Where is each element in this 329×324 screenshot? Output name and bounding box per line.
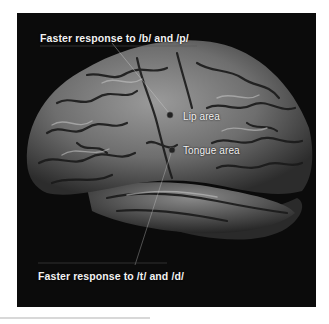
caption-fragment [0, 317, 150, 319]
brain-figure-panel: Faster response to /b/ and /p/ Lip area … [17, 13, 316, 307]
cropped-caption [0, 313, 160, 324]
label-tongue-area: Tongue area [183, 145, 240, 156]
brain-illustration [17, 13, 316, 307]
label-faster-t-d: Faster response to /t/ and /d/ [38, 270, 184, 282]
tongue-marker [169, 147, 175, 153]
label-faster-b-p: Faster response to /b/ and /p/ [40, 32, 189, 44]
label-lip-area: Lip area [183, 111, 220, 122]
lip-marker [167, 112, 173, 118]
